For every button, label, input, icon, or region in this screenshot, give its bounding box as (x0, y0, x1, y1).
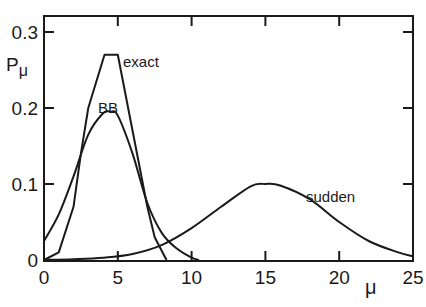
plot-frame (44, 16, 413, 261)
x-tick-label: 15 (255, 267, 276, 288)
y-tick-label: 0.3 (12, 22, 38, 43)
y-tick-label: 0.1 (12, 174, 38, 195)
axis-ticks (44, 16, 413, 261)
annotation-exact: exact (123, 53, 160, 70)
curve-exact (44, 55, 167, 260)
tick-labels: 051015202500.10.20.3 (12, 22, 424, 288)
annotation-sudden: sudden (306, 188, 355, 205)
y-tick-label: 0 (27, 250, 38, 271)
x-axis-label: μ (365, 276, 377, 298)
chart: 051015202500.10.20.3 Pμ μ exact BB sudde… (0, 0, 426, 307)
y-tick-label: 0.2 (12, 98, 38, 119)
curves (44, 55, 413, 260)
x-tick-label: 0 (39, 267, 50, 288)
curve-sudden (44, 184, 413, 260)
annotation-bb: BB (98, 99, 118, 116)
x-tick-label: 25 (402, 267, 423, 288)
x-tick-label: 10 (181, 267, 202, 288)
y-axis-label: Pμ (6, 54, 28, 79)
x-tick-label: 5 (113, 267, 124, 288)
x-tick-label: 20 (329, 267, 350, 288)
